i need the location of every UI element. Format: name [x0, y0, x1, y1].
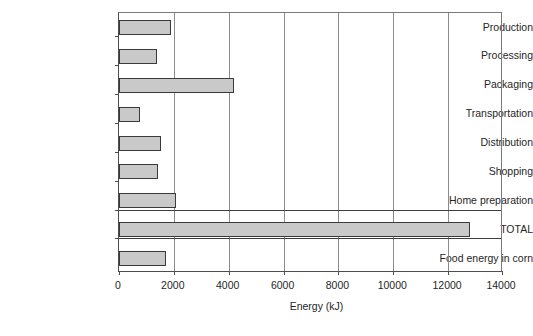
- xtick-label: 10000: [378, 279, 407, 291]
- bar-row: [119, 186, 176, 215]
- bar-production: [119, 20, 171, 35]
- xtick-mark: [393, 271, 394, 275]
- section-separator: [119, 210, 501, 211]
- bar-food-energy-in-corn: [119, 251, 166, 266]
- xtick-mark: [448, 271, 449, 275]
- bar-transportation: [119, 107, 140, 122]
- xtick-label: 0: [115, 279, 121, 291]
- xtick-mark: [229, 271, 230, 275]
- bar-row: [119, 129, 161, 158]
- xtick-mark: [338, 271, 339, 275]
- bar-row: [119, 100, 140, 129]
- xtick-mark: [502, 271, 503, 275]
- bar-row: [119, 244, 166, 273]
- x-axis-title-text: Energy (kJ): [290, 300, 344, 312]
- bar-home-preparation: [119, 193, 176, 208]
- bar-packaging: [119, 78, 234, 93]
- bar-row: [119, 71, 234, 100]
- xtick-label: 14000: [486, 279, 515, 291]
- xtick-label: 8000: [326, 279, 349, 291]
- bar-chart-figure: Production Processing Packaging Transpor…: [0, 0, 533, 336]
- bar-row: [119, 215, 470, 244]
- x-axis-title: Energy (kJ): [0, 300, 533, 312]
- bar-row: [119, 13, 171, 42]
- xtick-label: 12000: [432, 279, 461, 291]
- plot-area: [118, 12, 502, 272]
- bar-row: [119, 158, 158, 187]
- bar-row: [119, 42, 157, 71]
- bar-shopping: [119, 164, 158, 179]
- bar-distribution: [119, 136, 161, 151]
- xtick-label: 4000: [216, 279, 239, 291]
- bar-total: [119, 222, 470, 237]
- xtick-label: 6000: [271, 279, 294, 291]
- bar-processing: [119, 49, 157, 64]
- xtick-label: 2000: [161, 279, 184, 291]
- xtick-mark: [284, 271, 285, 275]
- xtick-mark: [174, 271, 175, 275]
